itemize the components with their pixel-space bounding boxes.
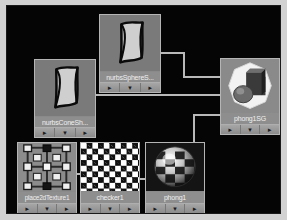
input-connections-button[interactable]: ► xyxy=(81,204,101,213)
node-swatch-checker xyxy=(81,143,139,192)
output-connections-button[interactable]: ► xyxy=(120,204,139,213)
output-connections-button[interactable]: ► xyxy=(57,204,76,213)
node-button-bar[interactable]: ► ▼ ► xyxy=(146,203,204,213)
input-connections-button[interactable]: ► xyxy=(100,83,120,92)
node-swatch-phong1sg xyxy=(221,59,279,113)
node-label: nurbsSphereS... xyxy=(100,72,160,83)
node-nurbs-cone-shape[interactable]: nurbsConeSh... ► ▼ ► xyxy=(34,59,96,138)
output-connections-button[interactable]: ► xyxy=(260,125,279,134)
nurbs-surface-icon xyxy=(100,15,160,71)
output-connections-button[interactable]: ► xyxy=(76,128,95,137)
node-label: checker1 xyxy=(81,192,139,203)
output-connections-button[interactable]: ► xyxy=(185,204,204,213)
input-connections-button[interactable]: ► xyxy=(221,125,241,134)
shading-group-icon xyxy=(221,59,279,112)
node-menu-button[interactable]: ▼ xyxy=(120,83,140,92)
checker-pattern-icon xyxy=(81,143,139,191)
wire-sphere-to-sg-seg1 xyxy=(161,52,185,54)
phong-sphere-icon xyxy=(146,143,204,191)
node-swatch-nurbs-cone xyxy=(35,60,95,117)
input-connections-button[interactable]: ► xyxy=(18,204,38,213)
node-menu-button[interactable]: ▼ xyxy=(241,125,261,134)
node-checker1[interactable]: checker1 ► ▼ ► xyxy=(80,142,140,214)
wire-phong-to-sg-seg2 xyxy=(193,114,221,116)
input-connections-button[interactable]: ► xyxy=(35,128,55,137)
node-swatch-place2dtexture xyxy=(18,143,76,192)
node-button-bar[interactable]: ► ▼ ► xyxy=(100,82,160,92)
node-button-bar[interactable]: ► ▼ ► xyxy=(18,203,76,213)
node-button-bar[interactable]: ► ▼ ► xyxy=(221,124,279,134)
nurbs-surface-icon xyxy=(35,60,95,116)
output-connections-button[interactable]: ► xyxy=(141,83,160,92)
wire-sphere-to-sg-seg2 xyxy=(183,52,185,78)
place2d-manipulator-icon xyxy=(18,143,76,191)
wire-sphere-to-sg-seg3 xyxy=(183,76,221,78)
input-connections-button[interactable]: ► xyxy=(146,204,166,213)
wire-cone-to-sg xyxy=(96,94,221,96)
node-label: phong1 xyxy=(146,192,204,203)
node-place2dtexture1[interactable]: place2dTexture1 ► ▼ ► xyxy=(17,142,77,214)
node-menu-button[interactable]: ▼ xyxy=(101,204,121,213)
node-label: nurbsConeSh... xyxy=(35,117,95,128)
node-nurbs-sphere-shape[interactable]: nurbsSphereS... ► ▼ ► xyxy=(99,14,161,93)
node-phong1sg[interactable]: phong1SG ► ▼ ► xyxy=(220,58,280,135)
node-menu-button[interactable]: ▼ xyxy=(38,204,58,213)
node-menu-button[interactable]: ▼ xyxy=(166,204,186,213)
node-label: place2dTexture1 xyxy=(18,192,76,203)
hypershade-work-area[interactable]: nurbsSphereS... ► ▼ ► nurbsConeSh... ► ▼… xyxy=(6,5,281,214)
node-swatch-nurbs-sphere xyxy=(100,15,160,72)
hypershade-window: nurbsSphereS... ► ▼ ► nurbsConeSh... ► ▼… xyxy=(0,0,287,220)
node-menu-button[interactable]: ▼ xyxy=(55,128,75,137)
node-button-bar[interactable]: ► ▼ ► xyxy=(81,203,139,213)
node-button-bar[interactable]: ► ▼ ► xyxy=(35,127,95,137)
node-label: phong1SG xyxy=(221,113,279,124)
node-phong1[interactable]: phong1 ► ▼ ► xyxy=(145,142,205,214)
node-swatch-phong1 xyxy=(146,143,204,192)
